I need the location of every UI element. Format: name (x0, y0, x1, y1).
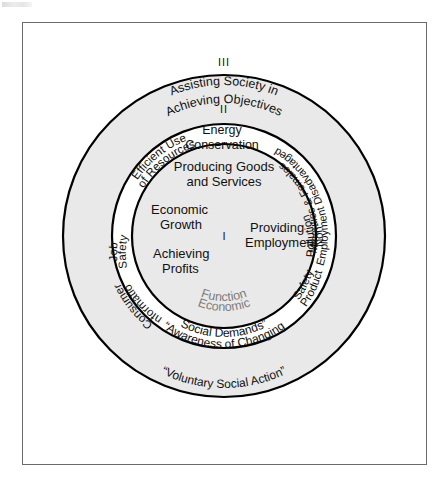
ring-1-item-producing-goods: Producing Goods (174, 159, 275, 174)
ring-1-item-providing: Providing (250, 220, 304, 235)
ring-1-item-economic: Economic (151, 202, 209, 217)
ring-2-item-energy: Energy (202, 123, 242, 137)
ring-1-item-employment: Employment (245, 235, 318, 250)
ring-1-item-and-services: and Services (186, 174, 262, 189)
ring-2-item-conservation: Conservation (185, 138, 259, 152)
ring-1-item-profits: Profits (162, 261, 199, 276)
figure-canvas: III Assisting Society in Achieving Objec… (0, 0, 446, 488)
ring-1-item-achieving: Achieving (153, 246, 209, 261)
concentric-circles-diagram: III Assisting Society in Achieving Objec… (0, 0, 446, 488)
ring-2-item-job-safety: Safety (116, 234, 130, 270)
ring-2-numeral: II (220, 103, 228, 115)
ring-1-item-growth: Growth (160, 217, 202, 232)
ring-1-numeral: I (222, 230, 225, 242)
ring-3-numeral: III (218, 56, 230, 68)
